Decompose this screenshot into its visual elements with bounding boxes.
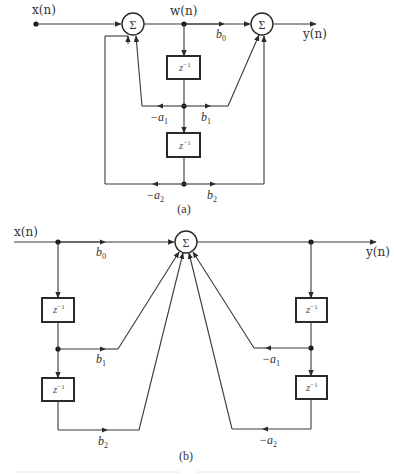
input-label-a: x(n) [32, 3, 56, 17]
b1-label-b: b1 [96, 352, 106, 368]
b0-label-b: b0 [96, 245, 106, 261]
neg-a2-label-a: −a2 [146, 188, 164, 204]
figure-a-direct-form-ii: x(n) Σ w(n) b0 Σ y(n) z−1 −a1 [32, 3, 327, 216]
neg-a1-feedback-wire [136, 36, 142, 106]
b1-feedforward-wire [228, 35, 259, 106]
w-label: w(n) [170, 4, 197, 18]
sigma-symbol: Σ [259, 18, 266, 32]
b1-label-a: b1 [201, 110, 211, 126]
b0-label-a: b0 [216, 27, 226, 43]
sigma-symbol: Σ [183, 236, 190, 250]
output-label-a: y(n) [302, 27, 327, 41]
b2-label-a: b2 [207, 188, 217, 204]
summer-b: Σ [175, 231, 197, 253]
sigma-symbol: Σ [130, 18, 137, 32]
input-label-b: x(n) [14, 225, 38, 239]
neg-a1-slant-wire-b [193, 252, 254, 348]
b2-slant-wire-b [139, 253, 183, 430]
neg-a1-label-b: −a1 [262, 352, 280, 368]
summer-2-a: Σ [251, 13, 273, 35]
output-label-b: y(n) [365, 245, 390, 259]
iir-filter-block-diagrams: x(n) Σ w(n) b0 Σ y(n) z−1 −a1 [0, 0, 394, 474]
figure-b-direct-form-i: x(n) b0 Σ y(n) z−1 b1 z−1 b2 z−1 [14, 225, 390, 463]
b1-slant-wire-b [118, 252, 179, 349]
neg-a2-label-b: −a2 [259, 433, 277, 449]
b2-label-b: b2 [98, 434, 108, 450]
neg-a1-label-a: −a1 [150, 110, 168, 126]
summer-1-a: Σ [122, 13, 144, 35]
caption-b: (b) [179, 449, 193, 463]
caption-a: (a) [177, 202, 190, 216]
